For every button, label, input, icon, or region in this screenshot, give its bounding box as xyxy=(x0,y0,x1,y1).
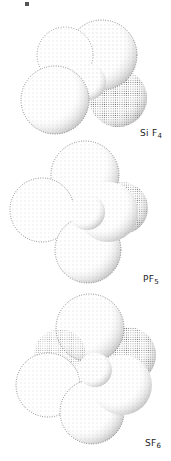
formula-main: SF xyxy=(145,438,157,448)
formula-main: Si F xyxy=(140,128,157,138)
formula-subscript: 5 xyxy=(154,278,159,286)
sf6-molecule-illustration xyxy=(0,290,171,461)
pf5-molecule-illustration xyxy=(0,140,171,290)
label-sif4: Si F4 xyxy=(140,128,162,140)
figure-sif4: Si F4 xyxy=(0,0,171,145)
label-sf6: SF6 xyxy=(145,438,161,450)
figure-sf6: SF6 xyxy=(0,290,171,461)
figure-pf5: PF5 xyxy=(0,140,171,290)
label-pf5: PF5 xyxy=(143,274,159,286)
sif4-molecule-illustration xyxy=(0,0,171,145)
formula-main: PF xyxy=(143,274,154,284)
formula-subscript: 4 xyxy=(157,132,162,140)
formula-subscript: 6 xyxy=(157,442,162,450)
